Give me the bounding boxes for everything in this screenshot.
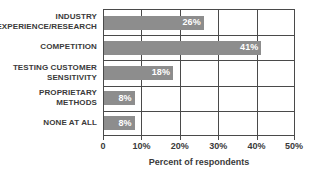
bar-value-label: 26% bbox=[182, 18, 203, 27]
tick-label-10: 10% bbox=[121, 141, 161, 152]
chart-title bbox=[103, 0, 295, 2]
plot-area: 26% 41% 18% 8% 8% bbox=[103, 9, 295, 136]
tick-label-50: 50% bbox=[274, 141, 313, 152]
category-label-industry-experience-research: INDUSTRY EXPERIENCE/RESEARCH bbox=[0, 12, 97, 31]
tick-label-30: 30% bbox=[198, 141, 238, 152]
tick-mark-0 bbox=[103, 136, 104, 140]
category-label-none-at-all: NONE AT ALL bbox=[0, 118, 97, 128]
tick-label-20: 20% bbox=[160, 141, 200, 152]
tick-mark-50 bbox=[294, 136, 295, 140]
x-axis-title: Percent of respondents bbox=[103, 157, 295, 168]
bar-value-label: 18% bbox=[152, 68, 173, 77]
bar-row: 8% bbox=[104, 111, 294, 136]
tick-mark-20 bbox=[180, 136, 181, 140]
category-label-competition: COMPETITION bbox=[0, 42, 97, 52]
bar-competition: 41% bbox=[104, 41, 261, 55]
bar-row: 18% bbox=[104, 60, 294, 85]
bar-industry-experience-research: 26% bbox=[104, 16, 204, 30]
tick-label-40: 40% bbox=[237, 141, 277, 152]
bar-value-label: 8% bbox=[118, 94, 134, 103]
bar-testing-customer-sensitivity: 18% bbox=[104, 66, 173, 80]
bar-none-at-all: 8% bbox=[104, 116, 135, 130]
tick-label-0: 0 bbox=[83, 141, 123, 152]
category-label-line1: PROPRIETARY bbox=[39, 88, 97, 97]
bar-chart: 26% 41% 18% 8% 8% INDUSTRY EXPERIENCE/ bbox=[0, 0, 313, 174]
bar-value-label: 8% bbox=[118, 119, 134, 128]
category-label-proprietary-methods: PROPRIETARY METHODS bbox=[0, 88, 97, 107]
category-label-line1: TESTING CUSTOMER bbox=[13, 63, 97, 72]
bar-row: 26% bbox=[104, 10, 294, 35]
bar-value-label: 41% bbox=[240, 43, 261, 52]
tick-mark-40 bbox=[257, 136, 258, 140]
bar-row: 8% bbox=[104, 86, 294, 111]
category-label-line2: METHODS bbox=[56, 98, 97, 107]
bar-proprietary-methods: 8% bbox=[104, 91, 135, 105]
category-label-line1: INDUSTRY bbox=[56, 12, 97, 21]
tick-mark-30 bbox=[218, 136, 219, 140]
category-label-testing-customer-sensitivity: TESTING CUSTOMER SENSITIVITY bbox=[0, 63, 97, 82]
tick-mark-10 bbox=[141, 136, 142, 140]
category-label-line2: EXPERIENCE/RESEARCH bbox=[0, 22, 97, 31]
bar-row: 41% bbox=[104, 35, 294, 60]
category-label-line2: SENSITIVITY bbox=[47, 73, 97, 82]
